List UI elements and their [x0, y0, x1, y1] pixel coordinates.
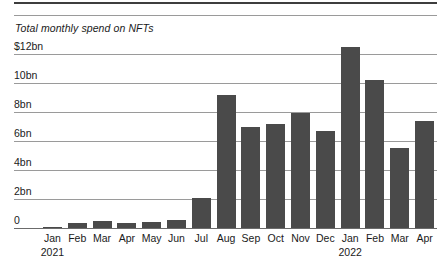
x-axis-year-label: 2022 — [338, 246, 363, 258]
x-tick-label: Mar — [90, 232, 115, 244]
x-tick-label: Jan — [40, 232, 65, 244]
x-tick-label: Dec — [313, 232, 338, 244]
bar — [167, 220, 186, 228]
bar — [316, 131, 335, 228]
x-tick-label: Jan — [338, 232, 363, 244]
bar — [217, 95, 236, 228]
x-tick-label: Aug — [214, 232, 239, 244]
x-tick-label: Mar — [387, 232, 412, 244]
bar — [117, 223, 136, 228]
bar — [365, 80, 384, 228]
nft-spend-bar-chart: Total monthly spend on NFTs $12bn10bn8bn… — [0, 0, 443, 276]
bar — [415, 121, 434, 228]
x-tick-label: Apr — [114, 232, 139, 244]
bar — [266, 124, 285, 228]
x-tick-label: Jun — [164, 232, 189, 244]
x-tick-label: Nov — [288, 232, 313, 244]
x-tick-label: Apr — [412, 232, 437, 244]
y-tick-label-4: 4bn — [14, 157, 32, 168]
bar — [93, 221, 112, 228]
bar — [291, 113, 310, 228]
x-tick-label: Sep — [239, 232, 264, 244]
x-axis-year-label: 2021 — [40, 246, 65, 258]
x-tick-label: May — [139, 232, 164, 244]
y-tick-label-6: 6bn — [14, 128, 32, 139]
bar — [241, 127, 260, 229]
y-tick-label-10: 10bn — [14, 70, 37, 81]
bar — [68, 223, 87, 228]
y-tick-label-8: 8bn — [14, 99, 32, 110]
y-tick-label-0: 0 — [14, 215, 20, 226]
x-tick-label: Jul — [189, 232, 214, 244]
bar — [390, 148, 409, 228]
x-tick-label: Feb — [363, 232, 388, 244]
bar — [142, 222, 161, 228]
y-tick-label-12: $12bn — [14, 41, 43, 52]
bar — [192, 198, 211, 228]
x-tick-label: Oct — [263, 232, 288, 244]
bar — [341, 47, 360, 228]
x-tick-label: Feb — [65, 232, 90, 244]
x-axis-tick-labels: Jan2021FebMarAprMayJunJulAugSepOctNovDec… — [40, 232, 437, 272]
bar — [43, 227, 62, 228]
y-tick-label-2: 2bn — [14, 186, 32, 197]
